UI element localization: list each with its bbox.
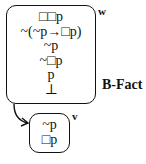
accessibility-arrow-icon	[0, 0, 146, 164]
formula-line: ~p	[42, 118, 57, 133]
world-v-box: ~p □p	[29, 113, 70, 153]
world-v-label: v	[72, 110, 78, 122]
formula-line: □p	[42, 133, 57, 148]
